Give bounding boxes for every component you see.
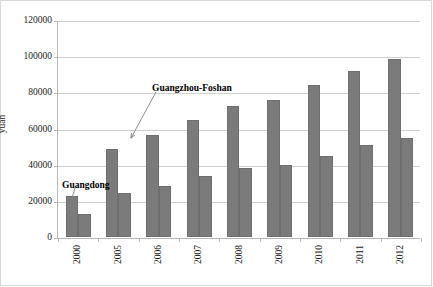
y-tick-label: 0 bbox=[47, 233, 52, 243]
x-tick-mark bbox=[98, 238, 99, 242]
chart-figure: yuan 020000400006000080000100000120000 2… bbox=[0, 0, 433, 287]
bar bbox=[227, 106, 240, 237]
x-tick-mark bbox=[219, 238, 220, 242]
x-tick-label: 2012 bbox=[396, 245, 406, 264]
bar bbox=[66, 196, 79, 237]
bar bbox=[78, 214, 91, 238]
x-tick-label: 2010 bbox=[315, 245, 325, 264]
bar bbox=[146, 135, 159, 237]
y-tick-label: 60000 bbox=[28, 125, 52, 135]
x-tick-mark bbox=[179, 238, 180, 242]
bar bbox=[267, 100, 280, 237]
y-tick-mark bbox=[54, 130, 58, 131]
bar bbox=[401, 138, 414, 237]
y-tick-mark bbox=[54, 202, 58, 203]
bar-group bbox=[106, 20, 131, 237]
x-tick-mark bbox=[139, 238, 140, 242]
x-tick-label: 2005 bbox=[114, 245, 124, 264]
x-tick-mark bbox=[381, 238, 382, 242]
y-axis-label: yuan bbox=[0, 115, 7, 133]
bar bbox=[348, 71, 361, 237]
plot-area: 020000400006000080000100000120000 200020… bbox=[57, 21, 420, 239]
x-tick-label: 2008 bbox=[235, 245, 245, 264]
y-tick-label: 120000 bbox=[24, 16, 53, 26]
y-tick-label: 40000 bbox=[28, 161, 52, 171]
bar-group bbox=[227, 20, 252, 237]
bar bbox=[118, 193, 131, 237]
bar bbox=[187, 120, 200, 237]
bar bbox=[280, 165, 293, 237]
bar bbox=[320, 156, 333, 237]
x-tick-mark bbox=[58, 238, 59, 242]
annotation-guangzhou-foshan-label: Guangzhou-Foshan bbox=[152, 83, 232, 93]
y-tick-label: 20000 bbox=[28, 197, 52, 207]
bar-group bbox=[308, 20, 333, 237]
x-tick-label: 2009 bbox=[275, 245, 285, 264]
y-tick-mark bbox=[54, 21, 58, 22]
x-tick-label: 2011 bbox=[356, 245, 366, 264]
y-tick-mark bbox=[54, 166, 58, 167]
x-tick-mark bbox=[260, 238, 261, 242]
x-tick-mark bbox=[421, 238, 422, 242]
bar bbox=[106, 149, 119, 237]
x-tick-mark bbox=[340, 238, 341, 242]
x-tick-label: 2007 bbox=[194, 245, 204, 264]
bar bbox=[308, 85, 321, 237]
x-tick-mark bbox=[300, 238, 301, 242]
bar-group bbox=[267, 20, 292, 237]
bar bbox=[388, 59, 401, 237]
bar-group bbox=[348, 20, 373, 237]
y-tick-mark bbox=[54, 93, 58, 94]
bar bbox=[159, 186, 172, 237]
bar bbox=[360, 145, 373, 237]
x-tick-label: 2006 bbox=[154, 245, 164, 264]
bar-group bbox=[146, 20, 171, 237]
y-tick-mark bbox=[54, 57, 58, 58]
y-tick-label: 80000 bbox=[28, 89, 52, 99]
bar-group bbox=[388, 20, 413, 237]
bar-group bbox=[187, 20, 212, 237]
bar-group bbox=[66, 20, 91, 237]
x-tick-label: 2000 bbox=[73, 245, 83, 264]
annotation-guangdong-label: Guangdong bbox=[62, 180, 110, 190]
bar bbox=[199, 176, 212, 237]
bar bbox=[239, 168, 252, 237]
y-tick-label: 100000 bbox=[24, 52, 53, 62]
